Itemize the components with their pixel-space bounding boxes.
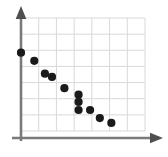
axis-lines: [12, 6, 163, 143]
data-point-marker: [86, 106, 94, 114]
data-point-marker: [96, 114, 104, 122]
grid-vertical-lines: [21, 18, 145, 131]
data-point-marker: [74, 98, 82, 106]
grid-lines: [21, 18, 145, 131]
scatter-plot-canvas: [0, 0, 168, 157]
data-point-marker: [30, 57, 38, 65]
data-point-marker: [60, 84, 68, 92]
data-point-marker: [107, 119, 115, 127]
y-axis-arrow-icon: [16, 6, 27, 19]
data-point-marker: [74, 91, 82, 99]
data-point-marker: [48, 73, 56, 81]
grid-horizontal-lines: [21, 18, 145, 131]
data-point-marker: [17, 49, 25, 57]
data-point-marker: [74, 106, 82, 114]
scatter-plot-figure: [0, 0, 168, 157]
data-point-marker: [41, 70, 49, 78]
x-axis-arrow-icon: [150, 133, 163, 144]
